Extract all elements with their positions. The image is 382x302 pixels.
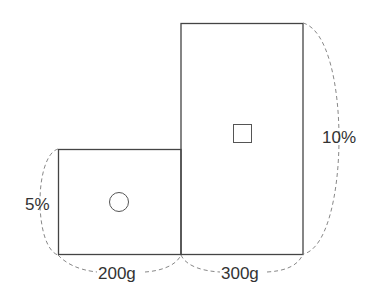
width-brace-left xyxy=(58,255,97,272)
right-width-label: 300g xyxy=(221,265,259,282)
left-rectangle xyxy=(59,150,182,255)
right-rectangle xyxy=(181,24,303,255)
square-icon xyxy=(234,125,252,143)
right-height-label: 10% xyxy=(322,129,356,146)
circle-icon xyxy=(110,193,129,212)
width-brace-left-2 xyxy=(145,255,181,272)
width-brace-right-2 xyxy=(267,254,303,272)
left-height-label: 5% xyxy=(25,196,50,213)
left-width-label: 200g xyxy=(98,265,136,282)
area-diagram xyxy=(0,0,382,302)
width-brace-right xyxy=(181,255,220,272)
